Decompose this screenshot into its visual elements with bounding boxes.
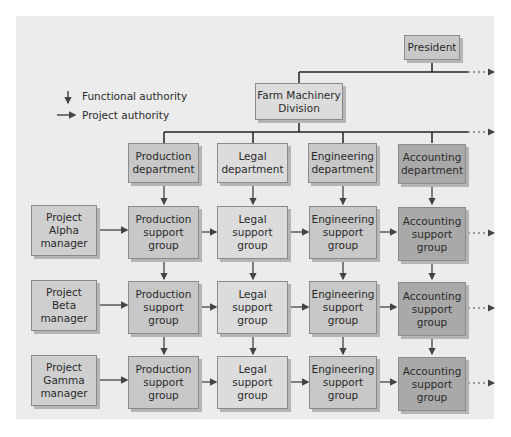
group-label: Engineering support group (312, 213, 375, 252)
engineering-support-group-alpha: Engineering support group (309, 206, 377, 259)
president-box: President (404, 35, 460, 60)
project-beta-manager-box: Project Beta manager (31, 280, 97, 331)
group-label: Legal support group (232, 288, 272, 327)
group-label: Accounting support group (403, 290, 462, 329)
dept-label: Engineering department (311, 150, 374, 176)
manager-label: Project Gamma manager (40, 361, 87, 400)
legal-department-box: Legal department (217, 143, 288, 183)
group-label: Accounting support group (403, 365, 462, 404)
accounting-department-box: Accounting department (398, 144, 466, 184)
legal-support-group-beta: Legal support group (217, 281, 288, 334)
division-label: Farm Machinery Division (257, 89, 341, 115)
production-support-group-beta: Production support group (128, 281, 199, 334)
engineering-support-group-beta: Engineering support group (309, 281, 377, 334)
legend-project-authority: Project authority (82, 109, 169, 121)
engineering-department-box: Engineering department (308, 143, 377, 183)
group-label: Engineering support group (312, 288, 375, 327)
manager-label: Project Beta manager (40, 286, 87, 325)
group-label: Production support group (136, 288, 192, 327)
project-alpha-manager-box: Project Alpha manager (31, 205, 97, 256)
group-label: Accounting support group (403, 215, 462, 254)
legend-functional-authority: Functional authority (82, 90, 187, 102)
president-label: President (408, 41, 457, 54)
legal-support-group-alpha: Legal support group (217, 206, 288, 259)
group-label: Legal support group (232, 363, 272, 402)
manager-label: Project Alpha manager (40, 211, 87, 250)
group-label: Engineering support group (312, 363, 375, 402)
accounting-support-group-beta: Accounting support group (398, 282, 466, 336)
dept-label: Accounting department (401, 151, 463, 177)
production-support-group-alpha: Production support group (128, 206, 199, 259)
production-department-box: Production department (128, 143, 199, 183)
group-label: Legal support group (232, 213, 272, 252)
division-box: Farm Machinery Division (255, 83, 343, 120)
dept-label: Production department (132, 150, 194, 176)
project-gamma-manager-box: Project Gamma manager (31, 355, 97, 406)
production-support-group-gamma: Production support group (128, 356, 199, 409)
group-label: Production support group (136, 213, 192, 252)
group-label: Production support group (136, 363, 192, 402)
accounting-support-group-gamma: Accounting support group (398, 357, 466, 411)
legal-support-group-gamma: Legal support group (217, 356, 288, 409)
dept-label: Legal department (221, 150, 283, 176)
accounting-support-group-alpha: Accounting support group (398, 207, 466, 261)
engineering-support-group-gamma: Engineering support group (309, 356, 377, 409)
